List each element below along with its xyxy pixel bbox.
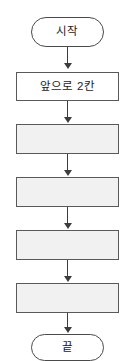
flowchart-connector-step5-to-end — [62, 313, 73, 333]
arrow-head-icon — [64, 170, 72, 176]
flowchart-node-end-label: 끝 — [62, 342, 73, 354]
flowchart-connector-step2-to-step3 — [62, 154, 73, 176]
flowchart-connector-step3-to-step4 — [62, 207, 73, 229]
connector-stem — [67, 101, 68, 117]
flowchart-connector-step1-to-step2 — [62, 101, 73, 123]
flowchart-node-step3[interactable] — [16, 177, 119, 207]
flowchart-node-step2[interactable] — [16, 124, 119, 154]
flowchart-node-step4[interactable] — [16, 230, 119, 260]
connector-stem — [67, 47, 68, 63]
arrow-head-icon — [64, 117, 72, 123]
connector-stem — [67, 313, 68, 327]
flowchart-connector-step4-to-step5 — [62, 260, 73, 282]
arrow-head-icon — [64, 223, 72, 229]
connector-stem — [67, 260, 68, 276]
flowchart-node-end[interactable]: 끝 — [31, 334, 104, 361]
flowchart-node-step1-label: 앞으로 2칸 — [40, 81, 95, 93]
flowchart-node-step1[interactable]: 앞으로 2칸 — [16, 72, 119, 101]
arrow-head-icon — [64, 327, 72, 333]
arrow-head-icon — [64, 63, 72, 69]
flowchart-connector-start-to-step1 — [62, 47, 73, 69]
flowchart-node-step5[interactable] — [16, 283, 119, 313]
flowchart-node-start-label: 시작 — [56, 26, 79, 38]
flowchart-node-start[interactable]: 시작 — [31, 17, 104, 47]
connector-stem — [67, 207, 68, 223]
connector-stem — [67, 154, 68, 170]
arrow-head-icon — [64, 276, 72, 282]
